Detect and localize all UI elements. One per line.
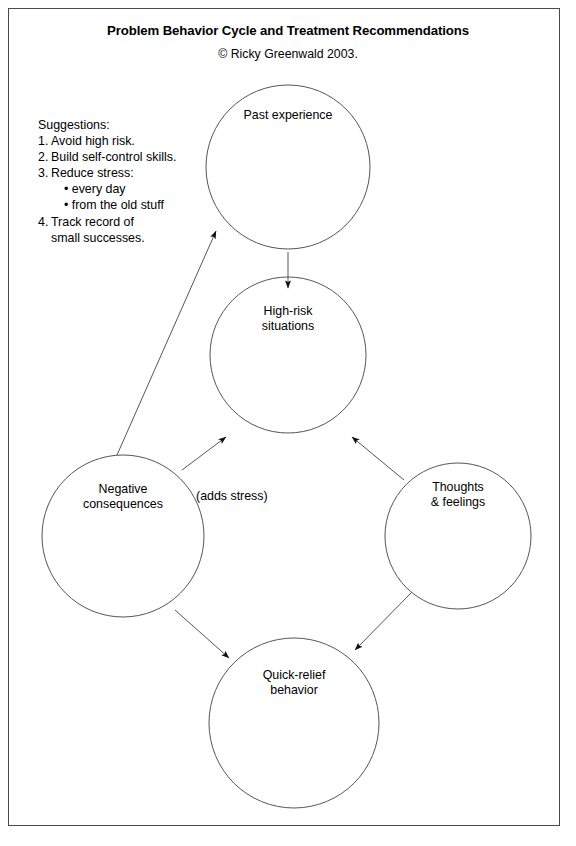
node-label-quick-relief-behavior: Quick-relief behavior (225, 668, 363, 698)
node-label-thoughts-feelings-line1: Thoughts (432, 480, 484, 494)
node-circle-negative-consequences (42, 455, 204, 617)
node-label-high-risk-situations: High-risk situations (219, 304, 357, 334)
node-label-high-risk-situations-line2: situations (262, 319, 314, 333)
node-label-negative-consequences-line1: Negative (99, 482, 148, 496)
node-circle-high-risk-situations (210, 277, 366, 433)
node-circle-quick-relief-behavior (209, 638, 379, 808)
diagram-canvas (0, 0, 576, 846)
edge-thoughts-feelings-to-quick-relief-behavior (355, 592, 412, 650)
node-label-high-risk-situations-line1: High-risk (264, 304, 313, 318)
node-label-past-experience-line1: Past experience (244, 108, 333, 122)
edge-negative-consequences-to-quick-relief-behavior (175, 610, 229, 658)
node-label-thoughts-feelings-line2: & feelings (431, 495, 485, 509)
node-label-thoughts-feelings: Thoughts & feelings (389, 480, 527, 510)
diagram-page: Problem Behavior Cycle and Treatment Rec… (0, 0, 576, 846)
edge-negative-consequences-to-past-experience (117, 231, 216, 455)
node-label-negative-consequences-line2: consequences (83, 497, 163, 511)
node-label-quick-relief-behavior-line2: behavior (270, 683, 318, 697)
node-label-past-experience: Past experience (219, 108, 357, 123)
edge-negative-consequences-to-high-risk-situations (182, 437, 226, 470)
node-label-quick-relief-behavior-line1: Quick-relief (263, 668, 326, 682)
node-label-negative-consequences: Negative consequences (54, 482, 192, 512)
edge-thoughts-feelings-to-high-risk-situations (352, 437, 404, 480)
edge-label-adds-stress: (adds stress) (196, 489, 268, 503)
